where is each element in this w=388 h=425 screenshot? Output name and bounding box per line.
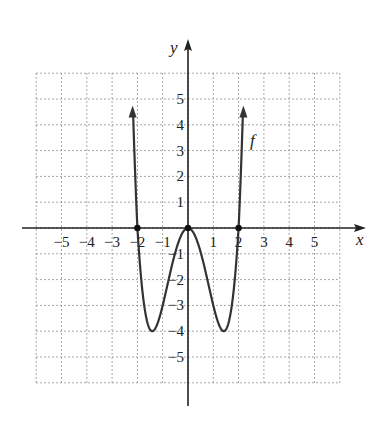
x-axis-label: x [355, 230, 364, 249]
x-tick-label: 5 [311, 234, 319, 250]
y-tick-label: 2 [177, 168, 185, 184]
x-tick-label: −5 [54, 234, 70, 250]
y-tick-label: −3 [168, 297, 184, 313]
y-axis-label: y [168, 38, 178, 57]
zero-point [235, 225, 241, 231]
curve-arrow-left-icon [129, 105, 137, 117]
y-tick-label: 3 [177, 143, 185, 159]
zero-point [134, 225, 140, 231]
x-tick-label: 3 [260, 234, 268, 250]
x-tick-label: −3 [104, 234, 120, 250]
y-tick-label: 4 [177, 117, 185, 133]
x-tick-label: −4 [79, 234, 95, 250]
y-tick-label: −4 [168, 323, 184, 339]
function-label: f [250, 131, 257, 150]
y-tick-label: 1 [177, 194, 185, 210]
x-tick-label: 1 [210, 234, 218, 250]
y-tick-label: −5 [168, 349, 184, 365]
zero-point [185, 225, 191, 231]
x-tick-label: 4 [285, 234, 293, 250]
function-graph: −5−4−3−2−11234554321−1−2−3−4−5 x y f [0, 0, 388, 425]
curve-arrow-right-icon [239, 105, 247, 117]
y-tick-label: 5 [177, 91, 185, 107]
